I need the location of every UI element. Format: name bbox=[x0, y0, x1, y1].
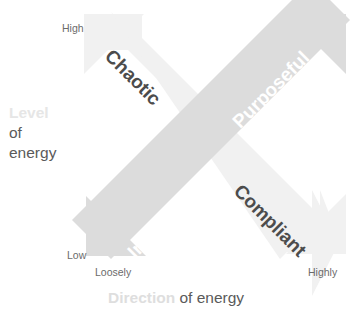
y-axis-tick-high: High bbox=[62, 22, 84, 34]
y-axis-label-energy: energy bbox=[9, 144, 56, 161]
energy-matrix-diagram: Level of energy Direction of energy High… bbox=[0, 0, 362, 314]
y-axis-label-faint: Level bbox=[9, 103, 56, 123]
y-axis-label: Level of energy bbox=[9, 103, 56, 163]
x-axis-tick-highly: Highly bbox=[308, 266, 337, 278]
x-axis-tick-loosely: Loosely bbox=[95, 266, 131, 278]
y-axis-tick-low: Low bbox=[67, 249, 86, 261]
y-axis-label-of: of bbox=[9, 124, 22, 141]
x-axis-label-faint: Direction bbox=[108, 289, 175, 306]
x-axis-label-solid: of energy bbox=[175, 289, 244, 306]
y-axis-label-solid: of energy bbox=[9, 123, 56, 163]
x-axis-label: Direction of energy bbox=[108, 288, 244, 308]
